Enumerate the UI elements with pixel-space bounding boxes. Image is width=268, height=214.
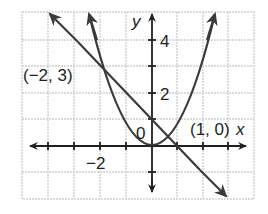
- x-axis: [30, 142, 246, 150]
- parabola-right-arrow-icon: [207, 14, 215, 40]
- line-down-arrow-icon: [200, 170, 226, 196]
- y-axis-label: y: [131, 12, 142, 31]
- y-tick-label-2: 2: [160, 85, 169, 104]
- parabola-left-arrow-icon: [89, 14, 97, 40]
- coordinate-graph: y 4 2 0 −2 (−2, 3) (1, 0) x: [0, 0, 268, 214]
- origin-label: 0: [136, 124, 145, 143]
- y-tick-label-4: 4: [160, 32, 169, 51]
- y-axis: [148, 14, 156, 192]
- point-label-neg2-3: (−2, 3): [23, 66, 73, 85]
- linear-function-line: [78, 42, 200, 170]
- x-axis-label: x: [235, 120, 245, 139]
- point-label-1-0: (1, 0): [190, 120, 230, 139]
- x-tick-label-neg2: −2: [86, 154, 105, 173]
